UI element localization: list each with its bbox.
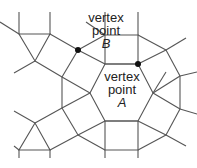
vertex-point-a-dot [135, 61, 141, 67]
label-b-letter: B [84, 37, 128, 50]
vertex-point-b-dot [75, 47, 81, 53]
label-a-letter: A [100, 96, 144, 109]
vertex-point-a-label: vertex point A [100, 70, 144, 109]
vertex-point-b-label: vertex point B [84, 11, 128, 50]
